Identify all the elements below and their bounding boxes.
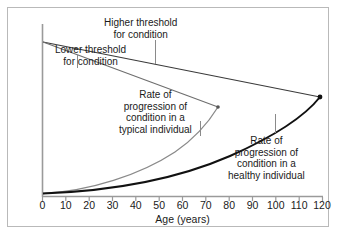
annotation-higher-threshold-line2: for condition <box>104 29 177 41</box>
annotation-healthy-individual: Rate of progression of condition in a he… <box>228 135 305 181</box>
annotation-typical-individual: Rate of progression of condition in a ty… <box>119 89 192 135</box>
annotation-lower-threshold-line2: for condition <box>55 56 126 68</box>
healthy-crossing-marker <box>318 95 323 100</box>
annotation-higher-threshold: Higher threshold for condition <box>104 17 177 40</box>
typical-crossing-marker <box>216 105 220 109</box>
annotation-typical-individual-line4: typical individual <box>119 124 192 136</box>
annotation-healthy-individual-line4: healthy individual <box>228 170 305 182</box>
annotation-higher-threshold-line1: Higher threshold <box>104 17 177 29</box>
annotation-typical-individual-line3: condition in a <box>119 112 192 124</box>
x-axis-title: Age (years) <box>42 213 323 225</box>
annotation-lower-threshold: Lower threshold for condition <box>55 44 126 67</box>
annotation-healthy-individual-line2: progression of <box>228 147 305 159</box>
annotation-typical-individual-line2: progression of <box>119 101 192 113</box>
x-tick-label: 120 <box>307 199 337 211</box>
annotation-typical-individual-line1: Rate of <box>119 89 192 101</box>
annotation-lower-threshold-line1: Lower threshold <box>55 44 126 56</box>
annotation-healthy-individual-line1: Rate of <box>228 135 305 147</box>
figure-container: 0 10 20 30 40 50 60 70 80 90 100 110 120… <box>0 0 338 236</box>
annotation-healthy-individual-line3: condition in a <box>228 158 305 170</box>
